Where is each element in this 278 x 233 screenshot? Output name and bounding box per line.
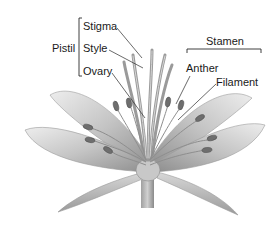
pistil-bracket [79, 18, 82, 76]
label-anther: Anther [186, 62, 218, 74]
stamen-bracket [187, 49, 261, 53]
label-stigma: Stigma [83, 20, 117, 32]
stigma-leader [117, 28, 142, 58]
label-style: Style [83, 42, 107, 54]
label-filament: Filament [216, 76, 258, 88]
anther-leader [176, 76, 190, 104]
flower-diagram: Pistil Stigma Style Ovary Stamen Anther … [0, 0, 278, 233]
label-stamen: Stamen [206, 35, 244, 47]
label-ovary: Ovary [83, 65, 112, 77]
label-pistil: Pistil [52, 42, 75, 54]
stem [141, 180, 154, 208]
